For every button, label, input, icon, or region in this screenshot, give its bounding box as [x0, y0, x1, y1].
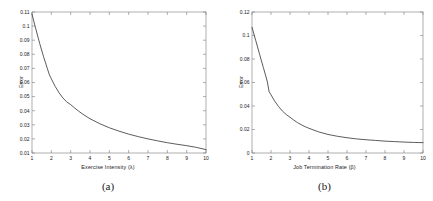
x-axis-label-a: Exercise Intensity (λ): [0, 164, 216, 170]
svg-text:0.04: 0.04: [240, 103, 250, 109]
svg-text:5: 5: [108, 155, 111, 161]
svg-text:0.08: 0.08: [240, 56, 250, 62]
svg-text:8: 8: [384, 155, 387, 161]
svg-text:3: 3: [289, 155, 292, 161]
svg-text:0.1: 0.1: [243, 32, 250, 38]
x-axis-label-b: Job Termination Rate (β): [216, 164, 433, 170]
panel-caption-b: (b): [216, 180, 433, 192]
svg-text:7: 7: [365, 155, 368, 161]
plot-area-b: 1234567891000.020.040.060.080.10.12: [216, 0, 433, 172]
svg-text:0.1: 0.1: [23, 23, 30, 29]
svg-text:6: 6: [127, 155, 130, 161]
svg-text:9: 9: [185, 155, 188, 161]
svg-text:10: 10: [203, 155, 209, 161]
figure-container: 123456789100.010.020.030.040.050.060.070…: [0, 0, 433, 201]
line-chart-b: 1234567891000.020.040.060.080.10.12: [216, 0, 433, 172]
chart-panel-b: 1234567891000.020.040.060.080.10.12 Erro…: [216, 0, 433, 201]
svg-text:4: 4: [89, 155, 92, 161]
panel-caption-a: (a): [0, 180, 216, 192]
svg-text:1: 1: [31, 155, 34, 161]
y-axis-label-b: Error: [238, 67, 244, 97]
svg-text:5: 5: [327, 155, 330, 161]
svg-text:7: 7: [147, 155, 150, 161]
plot-area-a: 123456789100.010.020.030.040.050.060.070…: [0, 0, 216, 172]
svg-text:6: 6: [346, 155, 349, 161]
svg-text:0.08: 0.08: [20, 51, 30, 57]
svg-text:0.02: 0.02: [240, 126, 250, 132]
svg-text:0.01: 0.01: [20, 150, 30, 156]
svg-text:0.12: 0.12: [240, 9, 250, 15]
svg-text:0.09: 0.09: [20, 37, 30, 43]
svg-text:8: 8: [166, 155, 169, 161]
chart-panel-a: 123456789100.010.020.030.040.050.060.070…: [0, 0, 216, 201]
svg-text:4: 4: [308, 155, 311, 161]
svg-text:2: 2: [50, 155, 53, 161]
svg-text:0.04: 0.04: [20, 108, 30, 114]
svg-text:10: 10: [420, 155, 426, 161]
svg-text:1: 1: [251, 155, 254, 161]
svg-text:0.02: 0.02: [20, 136, 30, 142]
svg-text:2: 2: [270, 155, 273, 161]
svg-text:9: 9: [403, 155, 406, 161]
svg-text:0.03: 0.03: [20, 122, 30, 128]
line-chart-a: 123456789100.010.020.030.040.050.060.070…: [0, 0, 216, 172]
svg-text:0.11: 0.11: [20, 9, 30, 15]
svg-text:3: 3: [69, 155, 72, 161]
y-axis-label-a: Error: [18, 67, 24, 97]
svg-text:0: 0: [247, 150, 250, 156]
